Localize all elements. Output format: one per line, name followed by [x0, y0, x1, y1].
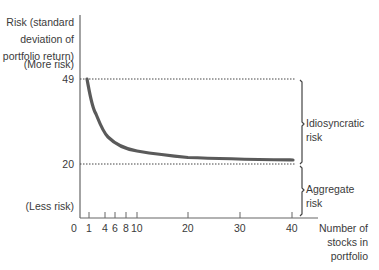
y-axis-label-line: Risk (standard	[0, 16, 74, 29]
risk-curve	[87, 79, 293, 160]
y-axis-label-line: deviation of	[0, 33, 74, 46]
idiosyncratic-bracket	[300, 80, 304, 164]
x-tick-4: 4	[102, 222, 108, 235]
x-tick-8: 8	[123, 222, 129, 235]
more-risk-label: (More risk)	[0, 58, 74, 71]
aggregate-risk-line: Aggregate	[306, 183, 354, 196]
y-tick-20: 20	[0, 158, 74, 171]
x-tick-30: 30	[234, 222, 246, 235]
aggregate-risk-label: Aggregate risk	[306, 183, 354, 210]
x-axis-label-line: portfolio	[300, 250, 368, 263]
x-tick-10: 10	[131, 222, 143, 235]
x-axis-label-line: stocks in	[300, 236, 368, 249]
x-tick-20: 20	[182, 222, 194, 235]
x-tick-40: 40	[286, 222, 298, 235]
idiosyncratic-risk-line: risk	[306, 131, 364, 144]
less-risk-label: (Less risk)	[0, 200, 74, 213]
aggregate-risk-line: risk	[306, 197, 354, 210]
y-axis-label: Risk (standard deviation of portfolio re…	[0, 16, 74, 63]
x-axis-label-line: Number of	[300, 222, 368, 235]
x-ticks	[89, 212, 292, 218]
idiosyncratic-risk-line: Idiosyncratic	[306, 117, 364, 130]
x-tick-6: 6	[112, 222, 118, 235]
x-tick-1: 1	[86, 222, 92, 235]
y-tick-49: 49	[0, 73, 74, 86]
aggregate-bracket	[300, 166, 304, 216]
idiosyncratic-risk-label: Idiosyncratic risk	[306, 117, 364, 144]
x-tick-0: 0	[71, 222, 77, 235]
x-axis-label: Number of stocks in portfolio	[300, 222, 368, 263]
